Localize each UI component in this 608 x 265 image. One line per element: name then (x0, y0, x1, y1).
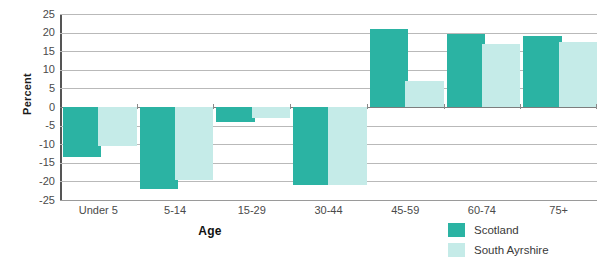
x-axis-tick (444, 104, 445, 109)
y-axis-tick-label: -20 (5, 176, 55, 187)
bar-group (520, 14, 597, 200)
bar-group (137, 14, 214, 200)
y-axis-tick-label: -5 (5, 120, 55, 131)
y-axis-tick-label: 10 (5, 64, 55, 75)
bar-scotland (447, 34, 485, 107)
x-axis-tick-label: Under 5 (60, 203, 137, 217)
x-axis-tick (290, 104, 291, 109)
legend-swatch-icon (448, 223, 465, 237)
x-axis-tick-labels: Under 55-1415-2930-4445-5960-7475+ (60, 203, 597, 219)
bar-group (367, 14, 444, 200)
y-axis-tick-label: 20 (5, 27, 55, 38)
x-axis-tick-label: 15-29 (213, 203, 290, 217)
bar-south-ayrshire (328, 107, 366, 185)
x-axis-tick (596, 104, 597, 109)
bar-scotland (523, 36, 561, 107)
bar-south-ayrshire (405, 81, 443, 107)
bar-south-ayrshire (98, 107, 136, 146)
y-axis-tick-label: -10 (5, 139, 55, 150)
y-axis-tick-label: 15 (5, 46, 55, 57)
y-axis-tick-label: 5 (5, 83, 55, 94)
x-axis-tick (137, 104, 138, 109)
legend-label: Scotland (474, 224, 519, 236)
bar-scotland (63, 107, 101, 157)
bar-group (290, 14, 367, 200)
y-axis-tick-labels: 2520151050-5-10-15-20-25 (0, 14, 55, 200)
x-axis-title: Age (150, 224, 270, 238)
legend-swatch-icon (448, 243, 465, 257)
bar-scotland (140, 107, 178, 189)
y-axis-tick-label: -15 (5, 157, 55, 168)
bar-scotland (293, 107, 331, 185)
y-axis-tick-label: 0 (5, 102, 55, 113)
x-axis-tick (367, 104, 368, 109)
x-axis-tick-label: 30-44 (290, 203, 367, 217)
bar-chart: Percent 2520151050-5-10-15-20-25 Under 5… (0, 0, 608, 265)
legend-label: South Ayrshire (474, 244, 549, 256)
bar-group (60, 14, 137, 200)
legend-item: Scotland (448, 221, 598, 239)
x-axis-tick-label: 75+ (520, 203, 597, 217)
y-axis-tick-label: -25 (5, 195, 55, 206)
bar-scotland (216, 107, 254, 122)
x-axis-tick-label: 5-14 (137, 203, 214, 217)
gridline (60, 200, 597, 201)
bar-group (444, 14, 521, 200)
plot-area (60, 14, 597, 200)
bar-scotland (370, 29, 408, 107)
x-axis-tick-label: 45-59 (367, 203, 444, 217)
legend-item: South Ayrshire (448, 241, 598, 259)
x-axis-tick (213, 104, 214, 109)
bar-south-ayrshire (252, 107, 290, 118)
chart-legend: ScotlandSouth Ayrshire (448, 221, 598, 261)
y-axis-tick-label: 25 (5, 9, 55, 20)
bar-south-ayrshire (482, 44, 520, 107)
bars-layer (60, 14, 597, 200)
bar-group (213, 14, 290, 200)
x-axis-tick-label: 60-74 (444, 203, 521, 217)
x-axis-tick (520, 104, 521, 109)
bar-south-ayrshire (175, 107, 213, 180)
bar-south-ayrshire (559, 42, 597, 107)
